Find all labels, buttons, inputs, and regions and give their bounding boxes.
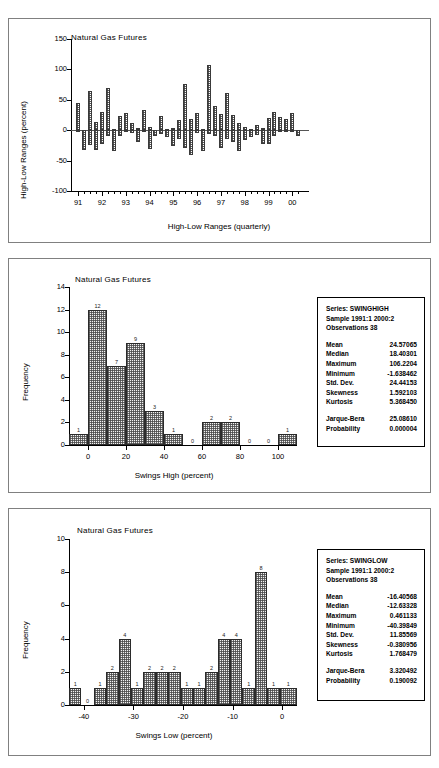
chart2-bar	[164, 434, 183, 445]
chart2-bar-value-label: 2	[221, 415, 240, 421]
chart3-x-tick	[183, 705, 184, 710]
chart1-plot-area: 150100500-50-10091929394959697989900	[9, 19, 430, 242]
chart3-y-tick	[65, 539, 69, 540]
chart3-bar	[230, 639, 242, 705]
chart1-bar-positive	[278, 117, 282, 130]
chart1-bar-negative	[284, 130, 288, 132]
statistics-row-key: Kurtosis	[326, 649, 359, 659]
statistics-row: Minimum-40.39849	[326, 621, 417, 631]
chart3-bar	[69, 688, 81, 705]
chart3-bar	[267, 688, 279, 705]
statistics-row-value: 11.85569	[390, 630, 417, 640]
chart1-bar-negative	[118, 130, 122, 135]
chart1-bar-negative	[100, 130, 104, 143]
chart1-bar-positive	[106, 88, 110, 131]
chart1-x-minor-tick	[108, 191, 109, 194]
chart1-bar-negative	[219, 130, 223, 148]
statistics-row-value: 5.368450	[389, 397, 417, 407]
spacer	[326, 659, 417, 666]
chart1-bar-negative	[255, 130, 259, 135]
chart1-x-minor-tick	[155, 191, 156, 194]
chart3-x-tick-label: -40	[68, 712, 100, 721]
statistics-row: Kurtosis1.768479	[326, 649, 417, 659]
chart2-x-tick-label: 60	[186, 452, 218, 461]
chart1-bar-negative	[142, 130, 146, 132]
chart3-bar-value-label: 1	[181, 681, 193, 687]
sample-line: Sample 1991:1 2000:2	[326, 566, 417, 576]
series-name-line: Series: SWINGHIGH	[326, 304, 417, 314]
chart3-bar-value-label: 1	[131, 681, 143, 687]
chart1-bar-negative	[225, 130, 229, 139]
statistics-row: Skewness-0.380956	[326, 640, 417, 650]
chart1-x-minor-tick	[179, 191, 180, 194]
statistics-row: Mean-16.40568	[326, 592, 417, 602]
chart1-y-tick-label: 50	[37, 95, 67, 104]
statistics-row-value: 18.40301	[389, 349, 417, 359]
chart2-y-tick	[65, 355, 69, 356]
chart1-y-tick	[67, 191, 71, 192]
chart1-x-tick-label: 94	[138, 198, 162, 207]
chart2-x-tick	[278, 445, 279, 450]
chart3-y-axis	[69, 539, 70, 705]
chart3-bar-value-label: 2	[168, 665, 180, 671]
chart1-bar-negative	[195, 130, 199, 132]
chart1-bar-positive	[183, 84, 187, 130]
statistics-row-value: -40.39849	[387, 621, 417, 631]
chart3-bar-value-label: 1	[69, 681, 81, 687]
chart3-x-tick	[133, 705, 134, 710]
chart2-x-tick-label: 100	[262, 452, 294, 461]
chart1-bar-positive	[219, 114, 223, 130]
chart1-x-tick-label: 95	[161, 198, 185, 207]
chart3-y-tick	[65, 572, 69, 573]
chart3-bar	[119, 639, 131, 705]
statistics-row: Mean24.57065	[326, 340, 417, 350]
chart1-bar-negative	[106, 130, 110, 136]
chart3-bar	[181, 688, 193, 705]
chart3-bar-value-label: 0	[81, 698, 93, 704]
chart-panel-swings-low: Natural Gas Futures Frequency Swings Low…	[8, 508, 431, 756]
chart2-bar	[107, 366, 126, 445]
statistics-row-key: Maximum	[326, 611, 362, 621]
statistics-box-swinghigh: Series: SWINGHIGH Sample 1991:1 2000:2 O…	[317, 297, 425, 447]
chart3-bar	[94, 688, 106, 705]
chart3-y-tick-label: 2	[39, 667, 65, 676]
chart1-x-minor-tick	[215, 191, 216, 194]
chart1-bar-positive	[100, 112, 104, 130]
chart1-bar-negative	[136, 130, 140, 142]
statistics-row-value: -0.380956	[387, 640, 417, 650]
chart2-x-axis	[69, 445, 297, 446]
statistics-row-key: Std. Dev.	[326, 630, 360, 640]
chart3-x-tick-label: -30	[117, 712, 149, 721]
chart3-y-tick-label: 0	[39, 700, 65, 709]
chart3-bar-value-label: 2	[156, 665, 168, 671]
chart3-bar	[218, 639, 230, 705]
chart1-bar-positive	[124, 113, 128, 130]
chart1-bar-negative	[159, 130, 163, 134]
chart1-x-major-tick	[78, 191, 79, 196]
chart2-bar-value-label: 7	[107, 359, 126, 365]
chart1-bar-negative	[237, 130, 241, 151]
chart2-bar	[145, 411, 164, 445]
chart2-x-tick	[88, 445, 89, 450]
chart3-x-tick-label: -20	[167, 712, 199, 721]
statistics-row-value: 0.190092	[389, 676, 417, 686]
chart2-y-tick	[65, 310, 69, 311]
chart2-bar	[126, 343, 145, 445]
chart3-bar-value-label: 1	[193, 681, 205, 687]
chart1-bar-negative	[148, 130, 152, 149]
chart1-bar-negative	[207, 130, 211, 134]
chart3-y-tick-label: 6	[39, 600, 65, 609]
chart1-x-minor-tick	[280, 191, 281, 194]
chart1-bar-negative	[243, 130, 247, 140]
chart2-y-tick-label: 8	[39, 350, 65, 359]
chart1-bar-positive	[267, 118, 271, 130]
chart1-bar-negative	[213, 130, 217, 136]
chart-panel-high-low-ranges: Natural Gas Futures High-Low Ranges (per…	[8, 18, 431, 243]
chart2-x-tick	[164, 445, 165, 450]
chart2-y-tick	[65, 445, 69, 446]
chart2-y-axis	[69, 287, 70, 445]
chart1-x-minor-tick	[263, 191, 264, 194]
chart2-y-tick-label: 2	[39, 417, 65, 426]
chart2-bar	[69, 434, 88, 445]
chart1-x-minor-tick	[239, 191, 240, 194]
